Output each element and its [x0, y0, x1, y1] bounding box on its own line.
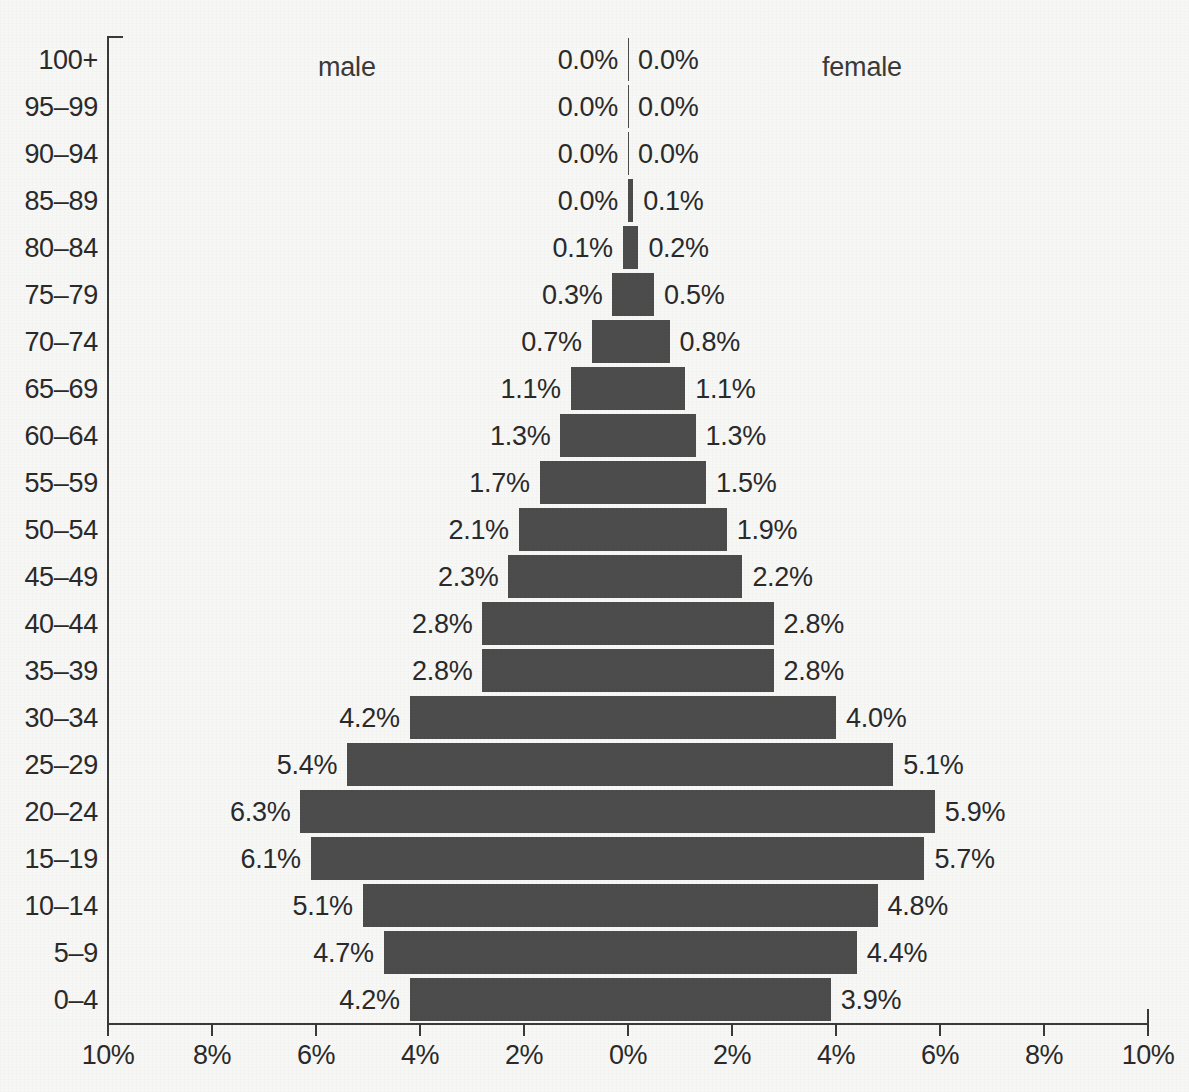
bar-female[interactable]	[628, 743, 893, 786]
pyramid-row: 45–492.3%2.2%	[0, 553, 1189, 600]
x-axis-tick	[315, 1025, 317, 1036]
pyramid-row: 35–392.8%2.8%	[0, 647, 1189, 694]
x-axis-tick-label: 4%	[817, 1040, 855, 1071]
value-label-female: 4.8%	[888, 890, 948, 921]
bar-male[interactable]	[540, 461, 628, 504]
bar-female[interactable]	[628, 978, 831, 1021]
value-label-male: 2.8%	[412, 655, 472, 686]
age-group-label: 45–49	[24, 561, 98, 592]
bar-female[interactable]	[628, 273, 654, 316]
bar-female[interactable]	[628, 884, 878, 927]
age-group-label: 15–19	[24, 843, 98, 874]
value-label-male: 1.7%	[469, 467, 529, 498]
bar-male[interactable]	[363, 884, 628, 927]
value-label-female: 5.7%	[934, 843, 994, 874]
age-group-label: 100+	[38, 44, 98, 75]
bar-female[interactable]	[628, 179, 633, 222]
x-axis-tick	[523, 1025, 525, 1036]
pyramid-row: 80–840.1%0.2%	[0, 224, 1189, 271]
x-axis-tick-label: 2%	[713, 1040, 751, 1071]
pyramid-row: 95–990.0%0.0%	[0, 83, 1189, 130]
bar-female[interactable]	[628, 696, 836, 739]
bar-female[interactable]	[628, 320, 670, 363]
x-axis-tick-label: 10%	[1122, 1040, 1175, 1071]
bar-male[interactable]	[300, 790, 628, 833]
age-group-label: 40–44	[24, 608, 98, 639]
pyramid-row: 85–890.0%0.1%	[0, 177, 1189, 224]
bar-male[interactable]	[508, 555, 628, 598]
bar-male[interactable]	[519, 508, 628, 551]
pyramid-row: 60–641.3%1.3%	[0, 412, 1189, 459]
bar-female[interactable]	[628, 461, 706, 504]
bar-male[interactable]	[410, 696, 628, 739]
value-label-female: 4.4%	[867, 937, 927, 968]
pyramid-row: 10–145.1%4.8%	[0, 882, 1189, 929]
value-label-female: 2.2%	[752, 561, 812, 592]
pyramid-row: 65–691.1%1.1%	[0, 365, 1189, 412]
bar-male[interactable]	[347, 743, 628, 786]
value-label-male: 2.8%	[412, 608, 472, 639]
bar-male[interactable]	[560, 414, 628, 457]
bar-female[interactable]	[628, 837, 924, 880]
value-label-male: 1.1%	[500, 373, 560, 404]
value-label-female: 1.5%	[716, 467, 776, 498]
bar-male[interactable]	[311, 837, 628, 880]
bar-female[interactable]	[628, 38, 629, 81]
bar-female[interactable]	[628, 226, 638, 269]
bar-female[interactable]	[628, 790, 935, 833]
bar-male[interactable]	[410, 978, 628, 1021]
value-label-male: 0.0%	[558, 91, 618, 122]
x-axis-tick	[107, 1025, 109, 1036]
age-group-label: 50–54	[24, 514, 98, 545]
value-label-female: 1.9%	[737, 514, 797, 545]
pyramid-row: 75–790.3%0.5%	[0, 271, 1189, 318]
value-label-female: 1.1%	[695, 373, 755, 404]
x-axis-tick-label: 0%	[609, 1040, 647, 1071]
age-group-label: 5–9	[54, 937, 98, 968]
x-axis-tick	[419, 1025, 421, 1036]
bar-female[interactable]	[628, 414, 696, 457]
x-axis-tick	[1043, 1025, 1045, 1036]
value-label-male: 1.3%	[490, 420, 550, 451]
value-label-male: 6.1%	[240, 843, 300, 874]
bar-female[interactable]	[628, 367, 685, 410]
age-group-label: 0–4	[54, 984, 98, 1015]
value-label-female: 0.0%	[638, 44, 698, 75]
value-label-male: 5.1%	[292, 890, 352, 921]
bar-male[interactable]	[592, 320, 628, 363]
bar-female[interactable]	[628, 555, 742, 598]
x-axis-tick-label: 6%	[297, 1040, 335, 1071]
bar-female[interactable]	[628, 508, 727, 551]
value-label-female: 0.2%	[648, 232, 708, 263]
bar-male[interactable]	[612, 273, 628, 316]
pyramid-row: 20–246.3%5.9%	[0, 788, 1189, 835]
bar-female[interactable]	[628, 602, 774, 645]
value-label-female: 0.8%	[680, 326, 740, 357]
age-group-label: 75–79	[24, 279, 98, 310]
x-axis-tick	[835, 1025, 837, 1036]
age-group-label: 35–39	[24, 655, 98, 686]
value-label-female: 0.1%	[643, 185, 703, 216]
bar-male[interactable]	[482, 602, 628, 645]
bar-male[interactable]	[482, 649, 628, 692]
pyramid-row: 70–740.7%0.8%	[0, 318, 1189, 365]
age-group-label: 30–34	[24, 702, 98, 733]
bar-male[interactable]	[384, 931, 628, 974]
x-axis-tick	[1147, 1025, 1149, 1036]
bar-female[interactable]	[628, 85, 629, 128]
population-pyramid-chart: male female 10%8%6%4%2%0%2%4%6%8%10% 100…	[0, 0, 1189, 1092]
value-label-male: 0.3%	[542, 279, 602, 310]
value-label-male: 4.2%	[339, 702, 399, 733]
bar-female[interactable]	[628, 649, 774, 692]
x-axis-tick-label: 10%	[82, 1040, 135, 1071]
bar-female[interactable]	[628, 931, 857, 974]
age-group-label: 70–74	[24, 326, 98, 357]
bar-female[interactable]	[628, 132, 629, 175]
value-label-male: 0.0%	[558, 185, 618, 216]
bar-male[interactable]	[571, 367, 628, 410]
x-axis-tick-label: 8%	[1025, 1040, 1063, 1071]
value-label-female: 5.1%	[903, 749, 963, 780]
pyramid-row: 40–442.8%2.8%	[0, 600, 1189, 647]
age-group-label: 60–64	[24, 420, 98, 451]
value-label-male: 2.1%	[448, 514, 508, 545]
